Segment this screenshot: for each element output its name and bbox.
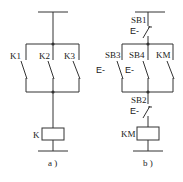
actuator-label: E- — [125, 65, 134, 75]
contact-k1: K1 — [10, 44, 27, 92]
switch-sb3: SB3 E- — [96, 44, 123, 92]
switch-sb2: SB2 E- — [130, 95, 152, 127]
switch-sb4: SB4 E- — [125, 44, 149, 92]
contact-k3: K3 — [64, 44, 80, 92]
contact-label: K1 — [10, 51, 21, 61]
diagram-b: SB1 E- SB3 E- SB4 E- KM — [96, 12, 174, 168]
switch-label: SB2 — [131, 95, 147, 105]
coil-km — [137, 127, 159, 140]
actuator-label: E- — [130, 106, 139, 116]
actuator-label: E- — [96, 65, 105, 75]
contact-km-aux: KM — [156, 44, 174, 92]
coil-label: KM — [121, 129, 136, 139]
switch-label: SB4 — [129, 50, 145, 60]
contact-label: KM — [156, 50, 171, 60]
coil-k — [42, 128, 64, 140]
switch-label: SB1 — [131, 15, 147, 25]
actuator-label: E- — [130, 26, 139, 36]
diagram-a: K1 K2 K3 K a ) — [10, 12, 80, 168]
switch-label: SB3 — [105, 50, 121, 60]
circuit-diagrams: K1 K2 K3 K a ) SB1 E- — [0, 0, 183, 182]
contact-label: K3 — [64, 51, 75, 61]
contact-k2: K2 — [39, 44, 54, 92]
switch-sb1: SB1 E- — [130, 15, 152, 44]
contact-label: K2 — [39, 51, 50, 61]
caption-a: a ) — [48, 158, 57, 168]
coil-label: K — [33, 130, 40, 140]
caption-b: b ) — [143, 158, 153, 168]
